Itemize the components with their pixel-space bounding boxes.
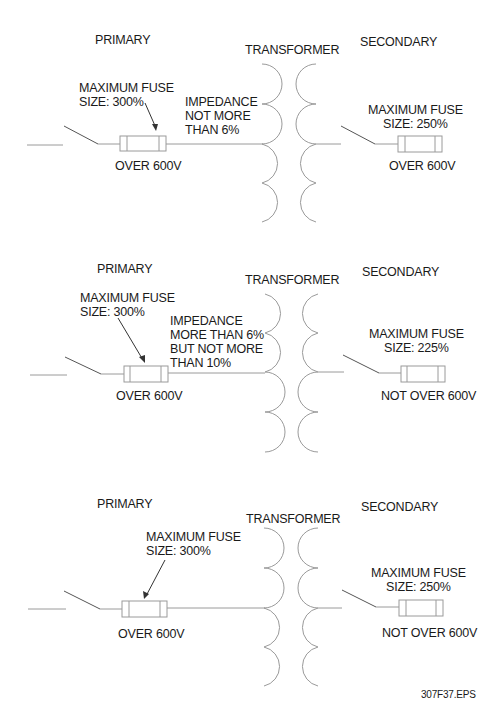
- primary-voltage-3: OVER 600V: [118, 627, 184, 641]
- transformer-label-1: TRANSFORMER: [245, 43, 339, 57]
- figure-id: 307F37.EPS: [421, 688, 476, 702]
- secondary-voltage-2: NOT OVER 600V: [381, 389, 476, 403]
- primary-fuse-note-1: MAXIMUM FUSE SIZE: 300%: [79, 81, 174, 109]
- primary-label-2: PRIMARY: [97, 262, 152, 276]
- primary-label-3: PRIMARY: [97, 497, 152, 511]
- primary-voltage-2: OVER 600V: [116, 389, 182, 403]
- secondary-fuse-note-2: MAXIMUM FUSE SIZE: 225%: [369, 327, 464, 355]
- primary-fuse-note-2: MAXIMUM FUSE SIZE: 300%: [80, 291, 175, 319]
- primary-voltage-1: OVER 600V: [115, 159, 181, 173]
- secondary-label-3: SECONDARY: [361, 500, 438, 514]
- impedance-note-1: IMPEDANCE NOT MORE THAN 6%: [185, 95, 258, 137]
- transformer-label-2: TRANSFORMER: [245, 273, 339, 287]
- primary-label-1: PRIMARY: [95, 33, 150, 47]
- secondary-voltage-3: NOT OVER 600V: [382, 626, 477, 640]
- transformer-label-3: TRANSFORMER: [246, 512, 340, 526]
- secondary-voltage-1: OVER 600V: [389, 159, 455, 173]
- secondary-fuse-note-1: MAXIMUM FUSE SIZE: 250%: [368, 103, 463, 131]
- primary-fuse-note-3: MAXIMUM FUSE SIZE: 300%: [146, 530, 241, 558]
- impedance-note-2: IMPEDANCE MORE THAN 6% BUT NOT MORE THAN…: [170, 314, 264, 370]
- secondary-fuse-note-3: MAXIMUM FUSE SIZE: 250%: [371, 566, 466, 594]
- secondary-label-2: SECONDARY: [362, 265, 439, 279]
- secondary-label-1: SECONDARY: [360, 35, 437, 49]
